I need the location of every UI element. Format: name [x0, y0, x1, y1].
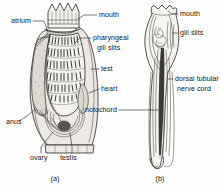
caption-panel-a: (a) — [50, 174, 59, 183]
figure-canvas: atrium mouth pharyngeal gill slits test … — [0, 0, 220, 193]
label-test: test — [101, 65, 113, 73]
label-anus: anus — [6, 118, 22, 126]
label-mouth-larva: mouth — [180, 10, 200, 18]
tunicate-figure: atrium mouth pharyngeal gill slits test … — [0, 0, 220, 193]
leader-mouth — [78, 15, 97, 19]
label-mouth: mouth — [99, 11, 119, 19]
caption-panel-b: (b) — [155, 174, 164, 183]
panel-b-tadpole-larva — [119, 5, 179, 169]
label-testis: testis — [60, 154, 77, 162]
label-pharyngeal-gill-slits-line1: pharyngeal — [93, 34, 129, 42]
label-atrium: atrium — [11, 17, 31, 25]
panel-a-adult-ascidian — [19, 3, 99, 153]
label-ovary: ovary — [30, 154, 48, 162]
label-gill-slits-larva: gill slits — [180, 29, 204, 37]
notochord-rod-right — [169, 58, 171, 156]
label-pharyngeal-gill-slits-line2: gill slits — [97, 44, 121, 52]
label-heart: heart — [101, 85, 117, 93]
basal-stalk — [45, 145, 94, 153]
label-dorsal-tubular-nerve-cord-line2: nerve cord — [177, 85, 211, 93]
label-notochord: notochord — [85, 106, 117, 114]
label-dorsal-tubular-nerve-cord-line1: dorsal tubular — [175, 75, 219, 83]
